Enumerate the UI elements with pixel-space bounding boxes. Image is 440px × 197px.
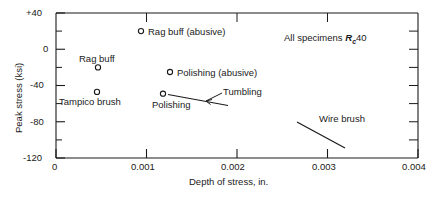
point-label-tumbling: Tumbling	[223, 87, 262, 97]
data-point-rag-buff-abusive	[138, 29, 143, 34]
point-label-rag-buff-abusive: Rag buff (abusive)	[148, 27, 225, 37]
data-point-polishing	[160, 91, 165, 96]
x-tick-label-0003: 0.003	[312, 162, 336, 172]
data-point-tampico-brush	[94, 89, 99, 94]
y-tick-label-neg120: -120	[23, 153, 42, 163]
x-top-ticks	[147, 13, 328, 22]
x-tick-label-0001: 0.001	[131, 162, 155, 172]
point-label-wire-brush: Wire brush	[319, 114, 365, 124]
point-label-rag-buff: Rag buff	[79, 54, 115, 64]
x-tick-label-0: 0	[52, 162, 57, 172]
note-prefix: All specimens	[284, 32, 345, 43]
tumbling-leader-line	[206, 93, 222, 101]
segment-wire-brush	[297, 122, 345, 148]
y-tick-label-neg80: -80	[30, 117, 44, 127]
point-label-polishing: Polishing	[152, 100, 191, 110]
wire-brush-line	[297, 122, 345, 148]
note-suffix: 40	[356, 32, 367, 43]
data-point-polishing-abusive	[167, 69, 172, 74]
y-tick-label-neg40: -40	[30, 80, 44, 90]
x-tick-label-0004: 0.004	[402, 162, 426, 172]
y-tick-label-0: 0	[43, 44, 48, 54]
x-axis-title: Depth of stress, in.	[189, 177, 268, 187]
x-tick-label-0002: 0.002	[221, 162, 245, 172]
y-axis-title: Peak stress (ksi)	[13, 63, 24, 133]
point-label-tampico-brush: Tampico brush	[59, 97, 121, 107]
y-tick-label-40: +40	[26, 8, 42, 18]
point-label-polishing-abusive: Polishing (abusive)	[177, 68, 257, 78]
y-right-ticks	[409, 31, 418, 140]
data-point-rag-buff	[95, 65, 100, 70]
y-major-ticks	[56, 13, 65, 158]
chart-figure: Peak stress (ksi) +40 0 -40 -80 -120 0 0…	[0, 0, 440, 197]
all-specimens-note: All specimens Rc40	[284, 33, 367, 45]
x-major-ticks	[56, 149, 418, 158]
